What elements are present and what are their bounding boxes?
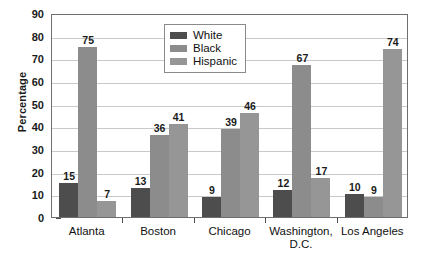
bar xyxy=(202,197,221,217)
caption-fragment xyxy=(6,256,426,264)
y-tick-label: 40 xyxy=(10,121,44,133)
legend-label: White xyxy=(193,29,222,42)
y-tick-label: 50 xyxy=(10,99,44,111)
bar-value-label: 17 xyxy=(304,165,338,177)
x-axis-label: Chicago xyxy=(194,225,265,238)
legend-swatch-icon xyxy=(170,58,187,65)
y-tick-label: 10 xyxy=(10,189,44,201)
x-tick-mark xyxy=(194,218,195,223)
legend-swatch-icon xyxy=(170,32,187,39)
chart-legend: WhiteBlackHispanic xyxy=(164,24,246,73)
bar xyxy=(150,135,169,217)
bar-value-label: 7 xyxy=(90,188,124,200)
y-tick-label: 0 xyxy=(10,212,44,224)
y-tick-mark xyxy=(56,218,61,219)
bar-value-label: 67 xyxy=(285,52,319,64)
bar xyxy=(59,183,78,217)
legend-item: Black xyxy=(170,42,240,55)
x-axis-label: Boston xyxy=(122,225,193,238)
bar xyxy=(169,124,188,217)
bar-group: 10974 xyxy=(345,15,402,217)
x-axis-label: Los Angeles xyxy=(337,225,408,238)
bar xyxy=(273,190,292,217)
y-tick-label: 20 xyxy=(10,167,44,179)
y-axis-tick-labels: 9080706050403020100 xyxy=(10,10,44,218)
x-tick-mark xyxy=(337,218,338,223)
bar xyxy=(292,65,311,217)
y-tick-label: 30 xyxy=(10,144,44,156)
y-tick-label: 70 xyxy=(10,53,44,65)
legend-swatch-icon xyxy=(170,45,187,52)
x-axis-label: Washington, D.C. xyxy=(265,225,336,251)
bar-value-label: 74 xyxy=(376,36,410,48)
bar xyxy=(221,129,240,217)
y-tick-label: 80 xyxy=(10,31,44,43)
bar-group: 15757 xyxy=(59,15,116,217)
bar xyxy=(311,178,330,217)
bar xyxy=(383,49,402,217)
x-axis-label: Atlanta xyxy=(51,225,122,238)
y-tick-label: 60 xyxy=(10,76,44,88)
bar xyxy=(240,113,259,217)
bar-value-label: 46 xyxy=(233,100,267,112)
x-tick-mark xyxy=(265,218,266,223)
bar xyxy=(345,194,364,217)
y-tick-label: 90 xyxy=(10,8,44,20)
x-tick-mark xyxy=(122,218,123,223)
legend-label: Black xyxy=(193,42,221,55)
bar xyxy=(364,197,383,217)
bar xyxy=(131,188,150,217)
bar-chart-figure: Percentage 9080706050403020100 157571336… xyxy=(0,0,438,265)
bar xyxy=(97,201,116,217)
legend-item: White xyxy=(170,29,240,42)
legend-item: Hispanic xyxy=(170,55,240,68)
bar-value-label: 75 xyxy=(71,34,105,46)
bar-group: 126717 xyxy=(273,15,330,217)
bar-value-label: 41 xyxy=(162,111,196,123)
legend-label: Hispanic xyxy=(193,55,237,68)
